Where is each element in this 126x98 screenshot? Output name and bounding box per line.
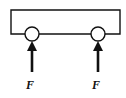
force-label-right: F bbox=[92, 79, 100, 91]
force-arrows bbox=[27, 41, 103, 72]
force-arrow-left bbox=[27, 41, 37, 72]
diagram-canvas bbox=[0, 0, 126, 98]
arrow-up-icon bbox=[27, 41, 37, 51]
force-arrow-right bbox=[93, 41, 103, 72]
force-label-left: F bbox=[26, 79, 34, 91]
arrow-up-icon bbox=[93, 41, 103, 51]
force-diagram: F F bbox=[0, 0, 126, 98]
roller-left bbox=[25, 27, 39, 41]
roller-right bbox=[91, 27, 105, 41]
